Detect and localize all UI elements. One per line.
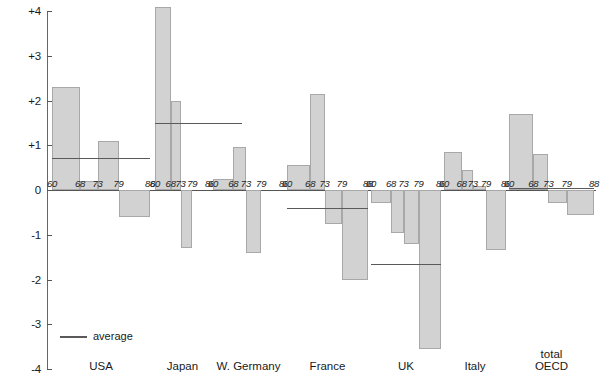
group-label-line: UK <box>398 360 414 372</box>
y-tick-label: -2 <box>15 274 41 286</box>
bar <box>181 190 193 248</box>
group-label-japan: Japan <box>167 360 198 372</box>
period-tick-label: 79 <box>413 178 423 189</box>
bar <box>419 190 442 349</box>
bar <box>391 190 404 233</box>
group-label-total-oecd: totalOECD <box>535 348 568 372</box>
group-label-uk: UK <box>398 360 414 372</box>
bar <box>325 190 342 224</box>
period-tick-label: 73 <box>398 178 408 189</box>
period-tick-label: 60 <box>150 178 160 189</box>
period-tick-label: 79 <box>337 178 347 189</box>
period-tick-label: 60 <box>282 178 292 189</box>
period-tick-label: 73 <box>468 178 478 189</box>
bar <box>404 190 419 244</box>
period-tick-label: 79 <box>113 178 123 189</box>
period-tick-label: 79 <box>481 178 491 189</box>
y-tick-label: -3 <box>15 318 41 330</box>
y-tick-label: +4 <box>15 5 41 17</box>
bar <box>310 94 324 190</box>
bar <box>371 190 391 203</box>
period-tick-label: 68 <box>166 178 176 189</box>
group-label-line: Italy <box>464 360 485 372</box>
period-tick-label: 68 <box>228 178 238 189</box>
bar <box>52 87 80 190</box>
y-tick-mark <box>47 56 52 57</box>
bar <box>342 190 368 280</box>
period-tick-label: 73 <box>241 178 251 189</box>
group-label-line: Japan <box>167 360 198 372</box>
group-label-line: France <box>310 360 346 372</box>
employment-change-bar-chart: % changes in employment in manufacturing… <box>0 0 601 375</box>
period-tick-label: 73 <box>92 178 102 189</box>
period-tick-label: 68 <box>305 178 315 189</box>
y-tick-label: +2 <box>15 95 41 107</box>
period-tick-label: 60 <box>208 178 218 189</box>
average-line <box>155 123 242 125</box>
period-tick-label: 68 <box>457 178 467 189</box>
group-label-italy: Italy <box>464 360 485 372</box>
bar <box>567 190 594 215</box>
bar <box>246 190 261 253</box>
y-tick-label: +1 <box>15 139 41 151</box>
period-tick-label: 60 <box>47 178 57 189</box>
period-tick-label: 68 <box>75 178 85 189</box>
average-line <box>371 264 441 266</box>
period-tick-label: 60 <box>439 178 449 189</box>
period-tick-label: 79 <box>256 178 266 189</box>
y-tick-label: -4 <box>15 363 41 375</box>
y-tick-label: +3 <box>15 50 41 62</box>
legend-average-swatch <box>60 336 87 338</box>
group-label-france: France <box>310 360 346 372</box>
group-label-line: W. Germany <box>217 360 281 372</box>
average-line <box>52 158 150 160</box>
period-tick-label: 73 <box>175 178 185 189</box>
group-label-line: OECD <box>535 360 568 372</box>
y-tick-label: 0 <box>15 184 41 196</box>
bar <box>155 7 171 190</box>
period-tick-label: 73 <box>320 178 330 189</box>
average-line <box>509 188 594 190</box>
y-tick-mark <box>47 324 52 325</box>
group-label-w-germany: W. Germany <box>217 360 281 372</box>
y-tick-mark <box>47 11 52 12</box>
y-tick-mark <box>47 280 52 281</box>
period-tick-label: 68 <box>386 178 396 189</box>
average-line <box>287 208 368 210</box>
bar <box>171 101 181 191</box>
y-tick-mark <box>47 235 52 236</box>
bar <box>548 190 566 203</box>
group-label-usa: USA <box>89 360 113 372</box>
period-tick-label: 79 <box>187 178 197 189</box>
y-tick-label: -1 <box>15 229 41 241</box>
legend-average-label: average <box>93 330 133 342</box>
period-tick-label: 60 <box>366 178 376 189</box>
y-tick-mark <box>47 369 52 370</box>
bar <box>486 190 506 250</box>
bar <box>119 190 151 217</box>
group-label-line: USA <box>89 360 113 372</box>
group-label-line: total <box>535 348 568 360</box>
